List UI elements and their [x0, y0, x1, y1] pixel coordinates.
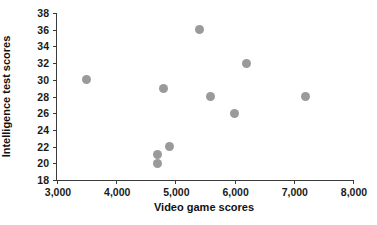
data-point: [195, 25, 204, 34]
data-point: [206, 92, 215, 101]
x-axis-title: Video game scores: [56, 201, 352, 213]
y-tick: 36: [53, 30, 57, 31]
y-tick-label: 20: [37, 157, 49, 170]
y-tick-label: 22: [37, 141, 49, 154]
y-tick: 28: [53, 97, 57, 98]
y-tick-label: 30: [37, 74, 49, 87]
data-point: [301, 92, 310, 101]
x-tick: 5,000: [175, 180, 176, 184]
y-tick-label: 34: [37, 40, 49, 53]
x-tick-label: 8,000: [341, 186, 367, 198]
plot-area: 1820222426283032343638 3,0004,0005,0006,…: [56, 13, 353, 181]
y-tick-label: 24: [37, 124, 49, 137]
x-tick: 7,000: [294, 180, 295, 184]
x-tick: 8,000: [353, 180, 354, 184]
x-tick-label: 5,000: [163, 186, 189, 198]
x-tick: 6,000: [235, 180, 236, 184]
y-axis-title: Intelligence test scores: [0, 13, 14, 180]
y-tick-label: 28: [37, 91, 49, 104]
x-tick-label: 7,000: [282, 186, 308, 198]
x-tick: 3,000: [57, 180, 58, 184]
data-point: [159, 84, 168, 93]
y-tick: 20: [53, 163, 57, 164]
y-tick: 24: [53, 130, 57, 131]
x-tick: 4,000: [116, 180, 117, 184]
y-tick: 32: [53, 63, 57, 64]
y-tick-label: 26: [37, 107, 49, 120]
y-tick: 26: [53, 113, 57, 114]
x-tick-label: 6,000: [222, 186, 248, 198]
data-point: [165, 142, 174, 151]
y-tick: 30: [53, 80, 57, 81]
y-tick: 34: [53, 46, 57, 47]
x-tick-label: 3,000: [45, 186, 71, 198]
y-tick: 22: [53, 147, 57, 148]
data-point: [82, 75, 91, 84]
y-tick-label: 32: [37, 57, 49, 70]
data-point: [153, 159, 162, 168]
y-tick-label: 36: [37, 24, 49, 37]
x-tick-label: 4,000: [104, 186, 130, 198]
y-tick-label: 38: [37, 7, 49, 20]
y-tick: 38: [53, 13, 57, 14]
scatter-plot-figure: 1820222426283032343638 3,0004,0005,0006,…: [0, 0, 377, 225]
data-point: [230, 109, 239, 118]
data-point: [242, 59, 251, 68]
